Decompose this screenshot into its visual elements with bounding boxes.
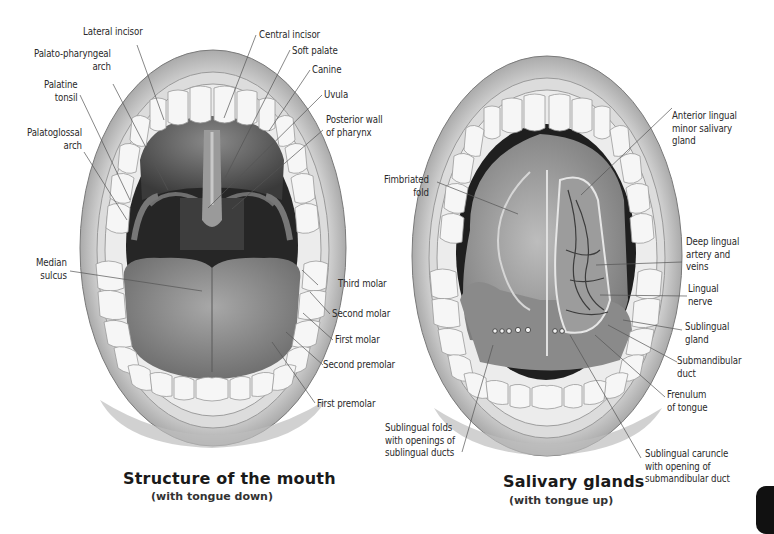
label-third-molar: Third molar bbox=[338, 278, 387, 291]
page-edge-tab bbox=[756, 486, 774, 534]
label-second-molar: Second molar bbox=[332, 308, 390, 321]
label-fimbriated-fold: Fimbriated fold bbox=[384, 174, 429, 199]
label-second-premolar: Second premolar bbox=[323, 359, 395, 372]
label-uvula: Uvula bbox=[324, 89, 348, 102]
label-sublingual-gland: Sublingual gland bbox=[685, 321, 729, 346]
label-canine: Canine bbox=[312, 64, 341, 77]
mouth-tongue-down bbox=[80, 50, 346, 448]
label-sublingual-caruncle: Sublingual caruncle with opening of subm… bbox=[645, 448, 730, 486]
label-palatine-tonsil: Palatine tonsil bbox=[44, 79, 78, 104]
label-deep-lingual-artery-and-veins: Deep lingual artery and veins bbox=[686, 236, 739, 274]
label-anterior-lingual-minor-salivary-gland: Anterior lingual minor salivary gland bbox=[672, 110, 737, 148]
label-posterior-wall-of-pharynx: Posterior wall of pharynx bbox=[326, 114, 383, 139]
caption-subtitle-mouth-structure: (with tongue down) bbox=[151, 490, 273, 503]
caption-title-salivary-glands: Salivary glands bbox=[503, 472, 645, 491]
label-lateral-incisor: Lateral incisor bbox=[83, 26, 143, 39]
label-submandibular-duct: Submandibular duct bbox=[677, 355, 741, 380]
label-sublingual-folds: Sublingual folds with openings of sublin… bbox=[385, 422, 455, 460]
label-first-molar: First molar bbox=[335, 334, 380, 347]
label-lingual-nerve: Lingual nerve bbox=[688, 283, 719, 308]
caption-subtitle-salivary-glands: (with tongue up) bbox=[509, 494, 613, 507]
caption-title-mouth-structure: Structure of the mouth bbox=[123, 469, 336, 488]
label-central-incisor: Central incisor bbox=[259, 29, 320, 42]
label-first-premolar: First premolar bbox=[317, 398, 375, 411]
label-palatoglossal-arch: Palatoglossal arch bbox=[27, 127, 82, 152]
label-frenulum-of-tongue: Frenulum of tongue bbox=[667, 389, 708, 414]
mouth-tongue-up bbox=[412, 56, 682, 456]
label-soft-palate: Soft palate bbox=[292, 45, 338, 58]
label-median-sulcus: Median sulcus bbox=[36, 257, 67, 282]
label-palato-pharyngeal-arch: Palato-pharyngeal arch bbox=[34, 48, 111, 73]
